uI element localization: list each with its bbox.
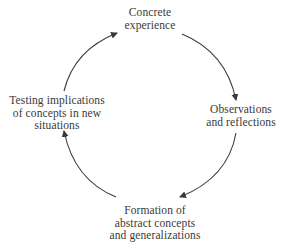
arrow-observations-to-formation <box>180 133 236 197</box>
stage-label-line: abstract concepts <box>93 217 217 230</box>
stage-label-line: situations <box>2 119 112 132</box>
stage-label-line: Concrete <box>110 6 190 19</box>
stage-testing-implications: Testing implications of concepts in new … <box>2 94 112 132</box>
stage-label-line: Testing implications <box>2 94 112 107</box>
arrow-concrete-to-observations <box>182 34 236 100</box>
stage-label-line: of concepts in new <box>2 107 112 120</box>
stage-label-line: Formation of <box>93 204 217 217</box>
stage-label-line: and generalizations <box>93 229 217 242</box>
stage-label-line: experience <box>110 19 190 32</box>
stage-observations-reflections: Observations and reflections <box>196 103 285 128</box>
stage-label-line: and reflections <box>196 116 285 129</box>
arrow-testing-to-concrete <box>64 33 117 91</box>
stage-label-line: Observations <box>196 103 285 116</box>
learning-cycle-diagram: Concrete experience Observations and ref… <box>0 0 285 246</box>
stage-formation-abstract-concepts: Formation of abstract concepts and gener… <box>93 204 217 242</box>
stage-concrete-experience: Concrete experience <box>110 6 190 31</box>
arrow-formation-to-testing <box>64 131 116 197</box>
